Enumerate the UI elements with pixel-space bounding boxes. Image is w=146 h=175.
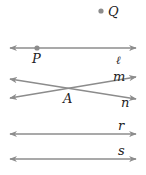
label-a: A [62, 91, 72, 106]
geometry-diagram: Q P ℓ m n A r s [0, 0, 146, 175]
label-r: r [118, 118, 125, 133]
label-l: ℓ [116, 54, 121, 67]
label-n: n [121, 95, 129, 110]
label-q: Q [108, 4, 119, 19]
point-p [34, 45, 39, 50]
label-s: s [118, 143, 125, 158]
label-p: P [31, 51, 41, 66]
point-q [98, 8, 103, 13]
label-m: m [113, 69, 125, 84]
